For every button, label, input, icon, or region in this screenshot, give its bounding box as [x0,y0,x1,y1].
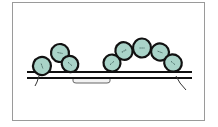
right-cluster [100,39,185,76]
dna-double-line [27,72,192,78]
nucleosome-bead [133,39,151,58]
nucleosome-bead [30,54,53,77]
nucleosome-diagram [0,0,218,127]
